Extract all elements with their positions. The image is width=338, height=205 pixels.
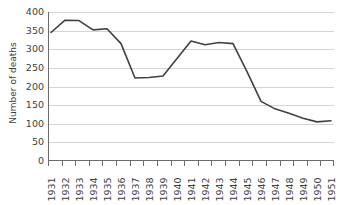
x-axis-tick-label: 1932 bbox=[60, 172, 71, 205]
x-axis-tick bbox=[252, 161, 253, 166]
x-axis-tick-labels: 1931193219331934193519361937193819391940… bbox=[48, 168, 334, 204]
y-axis-tick-label: 200 bbox=[14, 82, 44, 92]
x-axis-tick-label: 1950 bbox=[312, 172, 323, 205]
data-series-line bbox=[48, 12, 334, 161]
y-axis-tick-label: 150 bbox=[14, 100, 44, 110]
x-axis-tick bbox=[184, 161, 185, 166]
y-axis-tick-label: 100 bbox=[14, 119, 44, 129]
x-axis-tick bbox=[320, 161, 321, 166]
x-axis-tick-label: 1942 bbox=[200, 172, 211, 205]
x-axis-tick-label: 1947 bbox=[270, 172, 281, 205]
plot-area bbox=[48, 12, 334, 161]
x-axis-tick-label: 1944 bbox=[228, 172, 239, 205]
x-axis-tick-label: 1945 bbox=[242, 172, 253, 205]
y-axis-tick-label: 50 bbox=[14, 137, 44, 147]
x-axis-tick-label: 1939 bbox=[158, 172, 169, 205]
x-axis-tick-label: 1938 bbox=[144, 172, 155, 205]
x-axis-tick bbox=[130, 161, 131, 166]
x-axis-tick bbox=[75, 161, 76, 166]
x-axis-tick bbox=[48, 161, 49, 166]
x-axis-tick bbox=[62, 161, 63, 166]
x-axis-tick bbox=[143, 161, 144, 166]
y-axis-tick-label: 0 bbox=[14, 156, 44, 166]
x-axis-tick bbox=[293, 161, 294, 166]
x-axis-tick-label: 1940 bbox=[172, 172, 183, 205]
x-axis-tick bbox=[157, 161, 158, 166]
x-axis-tick-label: 1948 bbox=[284, 172, 295, 205]
x-axis-tick bbox=[116, 161, 117, 166]
y-axis-tick-label: 300 bbox=[14, 44, 44, 54]
x-axis-tick-label: 1933 bbox=[74, 172, 85, 205]
x-axis-tick bbox=[171, 161, 172, 166]
line-chart: Number of deaths 05010015020025030035040… bbox=[0, 0, 338, 204]
x-axis-tick-label: 1949 bbox=[298, 172, 309, 205]
y-axis-tick-label: 250 bbox=[14, 63, 44, 73]
x-axis-tick-label: 1946 bbox=[256, 172, 267, 205]
x-axis-tick bbox=[266, 161, 267, 166]
x-axis-tick-label: 1934 bbox=[88, 172, 99, 205]
x-axis-tick bbox=[280, 161, 281, 166]
y-axis-tick-label: 400 bbox=[14, 7, 44, 17]
x-axis-tick bbox=[333, 161, 334, 166]
x-axis-tick-label: 1943 bbox=[214, 172, 225, 205]
x-axis-tick bbox=[198, 161, 199, 166]
x-axis-tick-label: 1936 bbox=[116, 172, 127, 205]
x-axis-tick-label: 1951 bbox=[326, 172, 337, 205]
x-axis-tick bbox=[225, 161, 226, 166]
x-axis-tick bbox=[211, 161, 212, 166]
y-axis-tick-label: 350 bbox=[14, 26, 44, 36]
x-axis-tick-label: 1937 bbox=[130, 172, 141, 205]
x-axis-tick-label: 1941 bbox=[186, 172, 197, 205]
x-axis-ticks bbox=[48, 161, 334, 167]
y-axis-tick-labels: 050100150200250300350400 bbox=[14, 0, 44, 204]
x-axis-tick bbox=[239, 161, 240, 166]
x-axis-tick bbox=[102, 161, 103, 166]
x-axis-tick-label: 1935 bbox=[102, 172, 113, 205]
x-axis-tick bbox=[89, 161, 90, 166]
x-axis-tick bbox=[307, 161, 308, 166]
x-axis-tick-label: 1931 bbox=[46, 172, 57, 205]
